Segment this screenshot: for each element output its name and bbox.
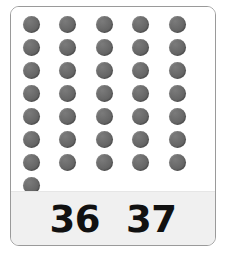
dot-cell xyxy=(23,59,59,82)
answer-choice-36[interactable]: 36 xyxy=(50,201,101,238)
dot-icon xyxy=(96,108,113,125)
dot-icon xyxy=(132,108,149,125)
dot-cell xyxy=(132,36,168,59)
dot-cell xyxy=(169,128,205,151)
dot-cell xyxy=(96,128,132,151)
dot-icon xyxy=(132,16,149,33)
dot-row xyxy=(23,105,205,128)
dot-row xyxy=(23,128,205,151)
dot-icon xyxy=(96,85,113,102)
dot-cell xyxy=(59,59,95,82)
dot-row xyxy=(23,82,205,105)
dot-icon xyxy=(169,85,186,102)
dot-icon xyxy=(96,39,113,56)
dot-cell xyxy=(96,36,132,59)
dot-row xyxy=(23,13,205,36)
dot-icon xyxy=(59,62,76,79)
dot-cell xyxy=(132,59,168,82)
dot-cell xyxy=(132,13,168,36)
dot-icon xyxy=(59,39,76,56)
dot-cell xyxy=(96,82,132,105)
dot-row xyxy=(23,151,205,174)
dot-cell xyxy=(59,36,95,59)
dot-cell xyxy=(132,82,168,105)
dot-cell xyxy=(59,105,95,128)
dot-icon xyxy=(169,108,186,125)
dot-icon xyxy=(59,154,76,171)
dot-cell xyxy=(23,13,59,36)
dot-cell xyxy=(59,151,95,174)
dot-cell xyxy=(169,151,205,174)
dot-icon xyxy=(132,62,149,79)
dot-icon xyxy=(23,16,40,33)
dot-icon xyxy=(23,108,40,125)
dot-icon xyxy=(59,131,76,148)
dot-icon xyxy=(169,131,186,148)
dot-cell xyxy=(59,82,95,105)
dot-cell xyxy=(96,13,132,36)
answer-choices: 36 37 xyxy=(11,192,215,246)
dot-cell xyxy=(96,59,132,82)
dot-icon xyxy=(169,39,186,56)
dot-row xyxy=(23,36,205,59)
dot-counting-card: 36 37 xyxy=(10,6,216,246)
dot-cell xyxy=(132,151,168,174)
dot-icon xyxy=(23,39,40,56)
dot-icon xyxy=(59,108,76,125)
dot-grid xyxy=(23,13,205,197)
dot-grid-area xyxy=(11,7,215,191)
dot-icon xyxy=(96,16,113,33)
dot-cell xyxy=(169,105,205,128)
dot-icon xyxy=(23,85,40,102)
dot-cell xyxy=(23,36,59,59)
answer-label-band: 36 37 xyxy=(11,191,215,246)
dot-icon xyxy=(96,154,113,171)
dot-cell xyxy=(169,36,205,59)
dot-icon xyxy=(59,85,76,102)
dot-cell xyxy=(23,151,59,174)
dot-icon xyxy=(132,154,149,171)
dot-icon xyxy=(132,85,149,102)
dot-cell xyxy=(96,105,132,128)
dot-cell xyxy=(23,105,59,128)
dot-cell xyxy=(59,13,95,36)
dot-cell xyxy=(169,82,205,105)
dot-icon xyxy=(169,154,186,171)
dot-row xyxy=(23,59,205,82)
dot-icon xyxy=(23,131,40,148)
dot-cell xyxy=(132,128,168,151)
dot-cell xyxy=(132,105,168,128)
dot-icon xyxy=(132,39,149,56)
dot-cell xyxy=(23,128,59,151)
dot-icon xyxy=(23,62,40,79)
dot-icon xyxy=(169,62,186,79)
dot-icon xyxy=(23,154,40,171)
dot-cell xyxy=(96,151,132,174)
dot-cell xyxy=(59,128,95,151)
dot-icon xyxy=(96,131,113,148)
dot-cell xyxy=(169,59,205,82)
dot-cell xyxy=(23,82,59,105)
dot-icon xyxy=(59,16,76,33)
dot-icon xyxy=(96,62,113,79)
dot-icon xyxy=(132,131,149,148)
dot-cell xyxy=(169,13,205,36)
dot-icon xyxy=(169,16,186,33)
answer-choice-37[interactable]: 37 xyxy=(126,201,177,238)
